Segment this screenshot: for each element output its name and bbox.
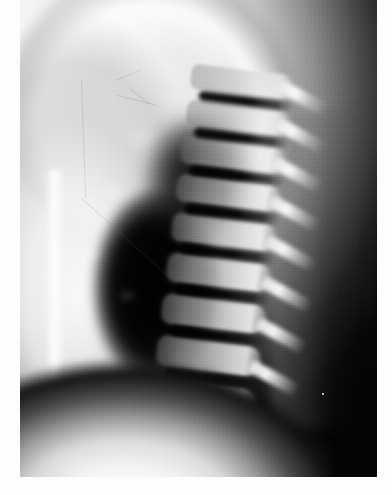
spinous-process — [270, 156, 324, 194]
page-margin-bottom — [0, 477, 392, 495]
page-margin-right — [377, 0, 392, 495]
dust-speck — [322, 393, 324, 395]
film-scratch — [115, 70, 141, 81]
film-scratch — [118, 95, 157, 106]
film-scratch — [81, 80, 86, 198]
page-margin-left — [0, 0, 20, 495]
diaphragm-base — [20, 357, 330, 477]
film-scratch — [129, 88, 150, 105]
radiograph-film — [20, 0, 377, 477]
radiograph-viewer: Black and white lateral chest and thorac… — [0, 0, 392, 495]
